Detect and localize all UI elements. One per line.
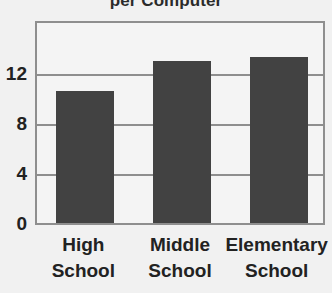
x-label-elementary-school: ElementarySchool [202,232,332,283]
y-tick-label-12: 12 [0,64,27,83]
x-label-line-1: High [62,234,104,255]
bar-high-school [56,91,114,223]
bar-elementary-school [250,57,308,223]
y-tick-label-4: 4 [0,164,27,183]
plot-area [35,21,325,225]
y-tick-label-8: 8 [0,114,27,133]
bar-middle-school [153,61,211,223]
x-axis-category-labels: HighSchoolMiddleSchoolElementarySchool [0,232,332,290]
chart-title: per Computer [0,0,332,11]
x-label-line-1: Elementary [225,234,327,255]
bar-chart: per Computer 04812 HighSchoolMiddleSchoo… [0,0,332,293]
x-label-line-2: School [202,258,332,284]
y-tick-label-0: 0 [0,214,27,233]
